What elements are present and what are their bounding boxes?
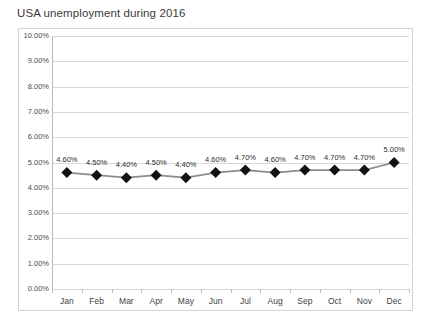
- x-axis-tick: [112, 289, 113, 293]
- data-point-label: 4.60%: [205, 156, 226, 164]
- data-point-marker: [61, 167, 72, 178]
- y-axis-tick-label: 4.00%: [19, 184, 49, 192]
- x-axis-tick: [52, 289, 53, 293]
- data-point-label: 4.50%: [86, 159, 107, 167]
- data-point-marker: [180, 172, 191, 183]
- data-point-marker: [270, 167, 281, 178]
- y-axis-tick-label: 5.00%: [19, 159, 49, 167]
- data-point-label: 4.40%: [116, 161, 137, 169]
- x-axis-tick-label: Sep: [297, 295, 312, 307]
- data-point-label: 4.70%: [324, 154, 345, 162]
- x-axis-tick: [320, 289, 321, 293]
- data-point-label: 4.70%: [354, 154, 375, 162]
- data-point-marker: [121, 172, 132, 183]
- x-axis-tick-label: Mar: [119, 295, 134, 307]
- x-axis-tick-label: May: [178, 295, 194, 307]
- data-point-label: 4.60%: [56, 156, 77, 164]
- x-axis-tick: [260, 289, 261, 293]
- data-point-marker: [389, 157, 400, 168]
- y-axis-tick-label: 10.00%: [19, 32, 49, 40]
- y-axis-tick-label: 3.00%: [19, 209, 49, 217]
- x-axis-tick-label: Nov: [357, 295, 372, 307]
- x-axis-tick: [290, 289, 291, 293]
- data-point-marker: [299, 165, 310, 176]
- unemployment-line-chart: USA unemployment during 2016 10.00%9.00%…: [0, 0, 431, 328]
- x-axis-tick: [231, 289, 232, 293]
- y-axis-tick-label: 0.00%: [19, 285, 49, 293]
- y-axis-tick-label: 6.00%: [19, 133, 49, 141]
- data-point-marker: [240, 165, 251, 176]
- x-axis-ticks: [52, 289, 409, 293]
- x-axis-tick: [350, 289, 351, 293]
- data-point-marker: [359, 165, 370, 176]
- x-axis-tick-label: Aug: [268, 295, 283, 307]
- y-axis-tick-label: 7.00%: [19, 108, 49, 116]
- x-axis-tick: [409, 289, 410, 293]
- x-axis-tick: [171, 289, 172, 293]
- data-point-label: 4.70%: [235, 154, 256, 162]
- data-point-label: 4.70%: [294, 154, 315, 162]
- plot-area: 10.00%9.00%8.00%7.00%6.00%5.00%4.00%3.00…: [18, 28, 413, 311]
- x-axis-tick-label: Apr: [150, 295, 163, 307]
- x-axis-tick: [379, 289, 380, 293]
- x-axis-tick-label: Jun: [209, 295, 223, 307]
- x-axis-tick-label: Oct: [328, 295, 341, 307]
- data-point-label: 5.00%: [383, 146, 404, 154]
- y-axis-tick-label: 9.00%: [19, 57, 49, 65]
- data-point-label: 4.50%: [145, 159, 166, 167]
- x-axis-tick: [201, 289, 202, 293]
- x-axis-tick-label: Feb: [89, 295, 104, 307]
- data-point-marker: [91, 170, 102, 181]
- data-series-unemployment: 4.60%4.50%4.40%4.50%4.40%4.60%4.70%4.60%…: [52, 36, 409, 289]
- x-axis-tick-label: Jul: [240, 295, 251, 307]
- y-axis-tick-label: 2.00%: [19, 234, 49, 242]
- data-point-label: 4.60%: [264, 156, 285, 164]
- x-axis-tick: [141, 289, 142, 293]
- y-axis-tick-label: 1.00%: [19, 260, 49, 268]
- y-axis-tick-label: 8.00%: [19, 83, 49, 91]
- x-axis-tick-label: Jan: [60, 295, 74, 307]
- x-axis-tick: [82, 289, 83, 293]
- data-point-marker: [329, 165, 340, 176]
- data-point-marker: [210, 167, 221, 178]
- chart-title: USA unemployment during 2016: [17, 7, 185, 19]
- x-axis-tick-labels: JanFebMarAprMayJunJulAugSepOctNovDec: [52, 295, 409, 309]
- y-axis-tick-labels: 10.00%9.00%8.00%7.00%6.00%5.00%4.00%3.00…: [19, 29, 49, 310]
- x-axis-tick-label: Dec: [387, 295, 402, 307]
- data-point-marker: [151, 170, 162, 181]
- data-point-label: 4.40%: [175, 161, 196, 169]
